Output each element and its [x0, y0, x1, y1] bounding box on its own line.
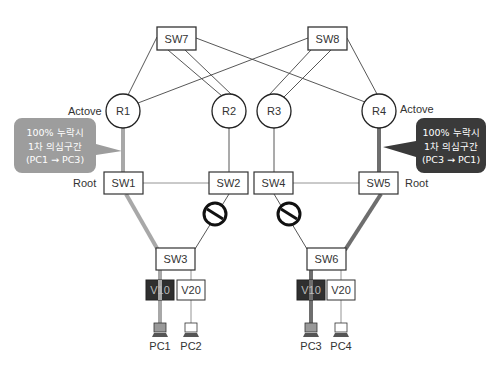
r3-label: R3: [267, 105, 281, 117]
dist-switch-sw1[interactable]: SW1: [104, 172, 143, 194]
sw1-role-label: Root: [73, 177, 96, 189]
pc1-label: PC1: [149, 340, 170, 352]
pc2[interactable]: PC2: [180, 323, 201, 352]
core-switch-sw8[interactable]: SW8: [308, 27, 347, 50]
sw4-label: SW4: [262, 177, 286, 189]
pc1[interactable]: PC1: [149, 323, 170, 352]
pc4[interactable]: PC4: [330, 323, 351, 352]
vlan-label: V20: [331, 284, 351, 296]
callout-left-line1: 100% 누락시: [26, 127, 83, 138]
r2-label: R2: [222, 105, 236, 117]
network-diagram: SW7 SW8 R1 Actove R2 R3 R4 Actove 100% 누…: [0, 0, 504, 371]
sw5-role-label: Root: [405, 177, 428, 189]
router-r2[interactable]: R2: [212, 94, 246, 128]
callout-right-line3: (PC3 → PC1): [422, 154, 480, 165]
sw7-label: SW7: [165, 33, 189, 45]
blocked-port-icon: [278, 203, 300, 225]
router-r4[interactable]: R4: [362, 94, 396, 128]
router-r1[interactable]: R1: [106, 94, 140, 128]
sw8-label: SW8: [316, 33, 340, 45]
callout-left: 100% 누락시 1차 의심구간 (PC1 → PC3): [14, 118, 122, 173]
computer-icon: [154, 323, 166, 332]
callout-right-line2: 1차 의심구간: [424, 141, 478, 152]
core-switch-sw7[interactable]: SW7: [157, 27, 196, 50]
vlan-v10-left: V10: [146, 280, 174, 300]
dist-switch-sw5[interactable]: SW5: [359, 172, 398, 194]
dist-switch-sw4[interactable]: SW4: [254, 172, 293, 194]
pc3-label: PC3: [300, 340, 321, 352]
dist-switch-sw2[interactable]: SW2: [209, 172, 248, 194]
callout-left-line2: 1차 의심구간: [28, 141, 82, 152]
computer-icon: [335, 323, 347, 332]
blocked-port-icon: [204, 203, 226, 225]
callout-right-line1: 100% 누락시: [422, 127, 479, 138]
pc2-label: PC2: [180, 340, 201, 352]
sw1-label: SW1: [112, 177, 136, 189]
router-r3[interactable]: R3: [257, 94, 291, 128]
sw5-label: SW5: [367, 177, 391, 189]
pc4-label: PC4: [330, 340, 351, 352]
access-switch-sw3[interactable]: SW3: [156, 248, 195, 270]
sw6-label: SW6: [315, 253, 339, 265]
access-switch-sw6[interactable]: SW6: [307, 248, 346, 270]
r1-role-label: Actove: [68, 105, 102, 117]
sw2-label: SW2: [217, 177, 241, 189]
vlan-label: V20: [181, 284, 201, 296]
computer-icon: [305, 323, 317, 332]
r4-role-label: Actove: [400, 103, 434, 115]
callout-right: 100% 누락시 1차 의심구간 (PC3 → PC1): [383, 118, 486, 173]
vlan-label: V10: [150, 284, 170, 296]
sw3-label: SW3: [164, 253, 188, 265]
pc3[interactable]: PC3: [300, 323, 321, 352]
vlan-v10-right: V10: [297, 280, 325, 300]
vlan-label: V10: [301, 284, 321, 296]
r1-label: R1: [116, 105, 130, 117]
callout-left-line3: (PC1 → PC3): [26, 154, 84, 165]
vlan-v20-left: V20: [177, 280, 205, 300]
computer-icon: [185, 323, 197, 332]
vlan-v20-right: V20: [327, 280, 355, 300]
r4-label: R4: [372, 105, 386, 117]
